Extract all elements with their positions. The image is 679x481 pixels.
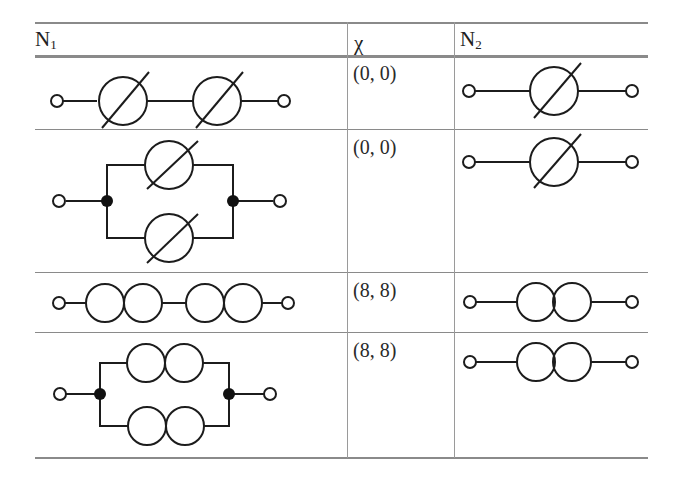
double-circle-icon (127, 344, 165, 382)
junction-node-icon (223, 388, 235, 400)
n1-diagram-row-3 (53, 284, 294, 322)
junction-node-icon (227, 195, 239, 207)
terminal-icon (626, 85, 638, 97)
crossed-circle-icon (145, 214, 193, 262)
n1-diagram-row-1 (0, 0, 679, 481)
n1-diagram-row-2 (53, 141, 286, 263)
double-circle-icon (186, 284, 224, 322)
double-circle-icon (553, 343, 591, 381)
terminal-icon (54, 388, 66, 400)
terminal-icon (53, 297, 65, 309)
terminal-icon (282, 297, 294, 309)
n2-diagram-row-1 (463, 63, 638, 118)
n2-diagram-row-4 (464, 343, 638, 381)
junction-node-icon (94, 388, 106, 400)
terminal-icon (464, 356, 476, 368)
terminal-icon (264, 388, 276, 400)
terminal-icon (626, 296, 638, 308)
terminal-icon (626, 156, 638, 168)
junction-node-icon (101, 195, 113, 207)
double-circle-icon (517, 343, 555, 381)
terminal-icon (626, 356, 638, 368)
crossed-circle-icon (145, 141, 193, 189)
terminal-icon (53, 195, 65, 207)
n2-diagram-row-2 (463, 134, 638, 188)
double-circle-icon (86, 284, 124, 322)
double-circle-icon (165, 344, 203, 382)
terminal-icon (464, 296, 476, 308)
terminal-icon (51, 95, 63, 107)
terminal-icon (274, 195, 286, 207)
double-circle-icon (553, 283, 591, 321)
series-crossed-circles-diagram (51, 72, 290, 128)
double-circle-icon (166, 407, 204, 445)
terminal-icon (463, 156, 475, 168)
double-circle-icon (128, 407, 166, 445)
double-circle-icon (224, 284, 262, 322)
terminal-icon (278, 95, 290, 107)
n2-diagram-row-3 (464, 283, 638, 321)
terminal-icon (463, 85, 475, 97)
double-circle-icon (517, 283, 555, 321)
double-circle-icon (124, 284, 162, 322)
n1-diagram-row-4 (54, 344, 276, 445)
